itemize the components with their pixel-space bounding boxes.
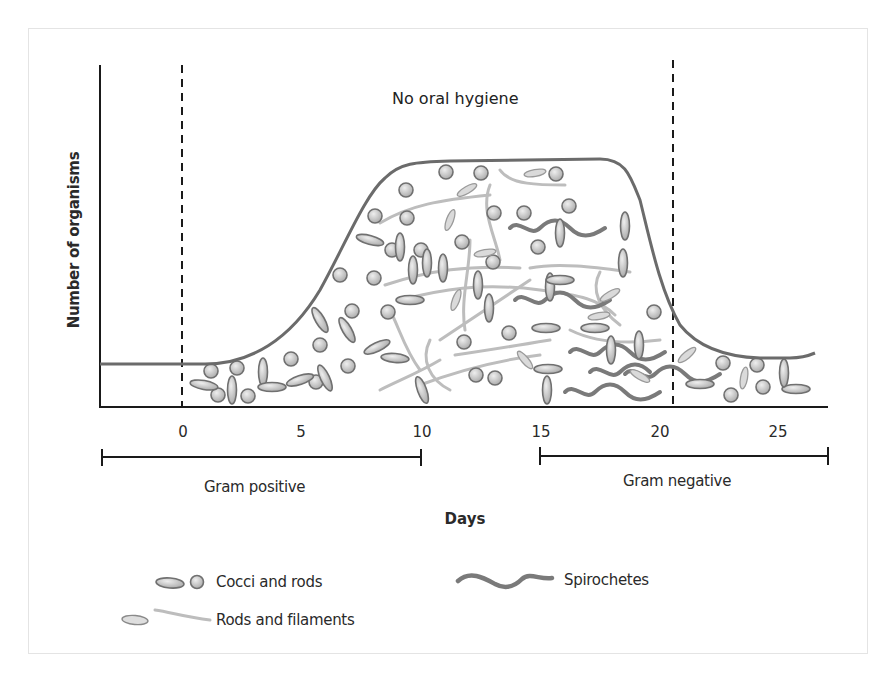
x-tick-20: 20 [650, 423, 669, 441]
x-axis-label: Days [445, 510, 486, 528]
spirochete-icon [458, 576, 552, 587]
legend-spirochetes-label: Spirochetes [564, 571, 649, 589]
gram-negative-label: Gram negative [623, 472, 731, 490]
x-tick-5: 5 [296, 423, 306, 441]
gram-negative-range [540, 447, 828, 465]
organism-curve [100, 159, 815, 364]
x-tick-0: 0 [178, 423, 188, 441]
gram-positive-label: Gram positive [204, 478, 305, 496]
filament-icon [122, 610, 210, 626]
x-tick-10: 10 [412, 423, 431, 441]
diagram-title: No oral hygiene [392, 89, 519, 108]
x-tick-15: 15 [531, 423, 550, 441]
x-tick-25: 25 [768, 423, 787, 441]
legend-cocci-rods-label: Cocci and rods [216, 573, 322, 591]
cocci-rods-icon [156, 576, 204, 590]
y-axis-label: Number of organisms [65, 152, 83, 329]
gram-positive-range [102, 449, 421, 466]
legend-rods-filaments-label: Rods and filaments [216, 611, 354, 629]
